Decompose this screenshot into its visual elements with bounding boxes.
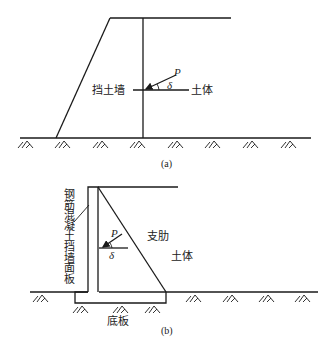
soil-label: 土体 bbox=[171, 249, 193, 263]
force-p-label: P bbox=[173, 66, 181, 78]
ground-hatch-icon bbox=[168, 141, 183, 148]
soil-label: 土体 bbox=[191, 83, 213, 97]
ground-hatch-icon bbox=[33, 295, 48, 302]
ground-hatch-icon bbox=[93, 141, 108, 148]
ground-hatch-icon bbox=[18, 141, 33, 148]
figure-b-counterfort-retaining-wall: 钢筋混凝土挡墙面板 P δ 支肋 土体 底板 (b) bbox=[30, 187, 318, 337]
base-slab-label: 底板 bbox=[107, 314, 129, 328]
figure-b-caption: (b) bbox=[161, 325, 173, 337]
ground-hatch-icon bbox=[130, 141, 145, 148]
ground-hatch-icon bbox=[205, 141, 220, 148]
base-slab bbox=[75, 292, 166, 303]
ground-hatch-icon bbox=[113, 306, 128, 313]
angle-arc bbox=[157, 84, 159, 90]
ground-hatch-icon bbox=[73, 306, 88, 313]
retaining-wall-label: 挡土墙 bbox=[92, 83, 125, 97]
ground-hatch-icon bbox=[295, 295, 310, 302]
angle-delta-label: δ bbox=[109, 249, 115, 261]
panel-leader-line bbox=[74, 205, 89, 222]
ground-hatch-icon bbox=[223, 295, 238, 302]
angle-arc bbox=[110, 243, 112, 248]
angle-delta-label: δ bbox=[167, 79, 173, 91]
figure-a-gravity-retaining-wall: 挡土墙 土体 P δ (a) bbox=[18, 18, 311, 170]
wall-sloped-face bbox=[56, 18, 110, 138]
diagram-canvas: 挡土墙 土体 P δ (a) 钢筋混凝土挡墙面板 P δ 支肋 土体 底板 (b… bbox=[0, 0, 334, 349]
ground-hatch-row bbox=[18, 141, 296, 148]
figure-a-caption: (a) bbox=[161, 158, 172, 170]
ground-hatch-icon bbox=[55, 141, 70, 148]
ground-hatch-icon bbox=[259, 295, 274, 302]
ground-hatch-icon bbox=[243, 141, 258, 148]
force-p-label: P bbox=[110, 227, 118, 239]
face-panel-label-char: 板 bbox=[64, 272, 75, 286]
rib-label: 支肋 bbox=[147, 229, 169, 243]
ground-hatch-icon bbox=[186, 295, 201, 302]
face-panel-label: 钢筋混凝土挡墙面板 bbox=[64, 188, 75, 286]
face-panel bbox=[88, 187, 98, 292]
ground-hatch-icon bbox=[145, 306, 160, 313]
ground-hatch-icon bbox=[281, 141, 296, 148]
